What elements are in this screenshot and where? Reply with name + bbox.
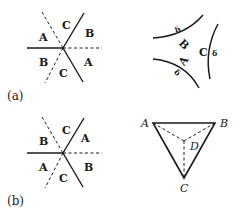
- sector-label: C: [62, 19, 71, 32]
- panel-a-arc-labels: B A C δ δ δ: [172, 24, 218, 79]
- vertex-label-a: A: [140, 117, 149, 130]
- panel-a-sector-labels: C B A C B A: [38, 19, 94, 80]
- sector-label: A: [83, 56, 93, 69]
- arc-label: B: [176, 37, 192, 53]
- sector-label: B: [85, 27, 94, 40]
- figure-canvas: C B A C B A (a) B A C δ δ δ C A B C A B …: [0, 0, 240, 222]
- panel-b-triangle: [153, 123, 215, 178]
- panel-label-b: (b): [7, 194, 24, 208]
- vertex-label-d: D: [189, 140, 199, 153]
- panel-label-a: (a): [7, 89, 24, 103]
- sector-label: B: [39, 135, 48, 148]
- sector-label: A: [38, 161, 48, 174]
- panel-a-arcs: [153, 15, 218, 88]
- sector-label: C: [59, 67, 68, 80]
- vertex-label-c: C: [180, 182, 189, 195]
- panel-b-vertex-labels: A B C D: [140, 117, 228, 195]
- sector-label: B: [84, 161, 93, 174]
- vertex-label-b: B: [219, 117, 228, 130]
- sector-label: C: [59, 172, 68, 185]
- sector-label: A: [38, 31, 48, 44]
- sector-label: B: [39, 56, 48, 69]
- panel-b-sector-labels: C A B C A B: [38, 124, 93, 185]
- delta-mark: δ: [172, 67, 183, 79]
- sector-label: A: [80, 132, 90, 145]
- arc-label: C: [199, 46, 208, 59]
- sector-label: C: [62, 124, 71, 137]
- delta-mark: δ: [212, 48, 218, 58]
